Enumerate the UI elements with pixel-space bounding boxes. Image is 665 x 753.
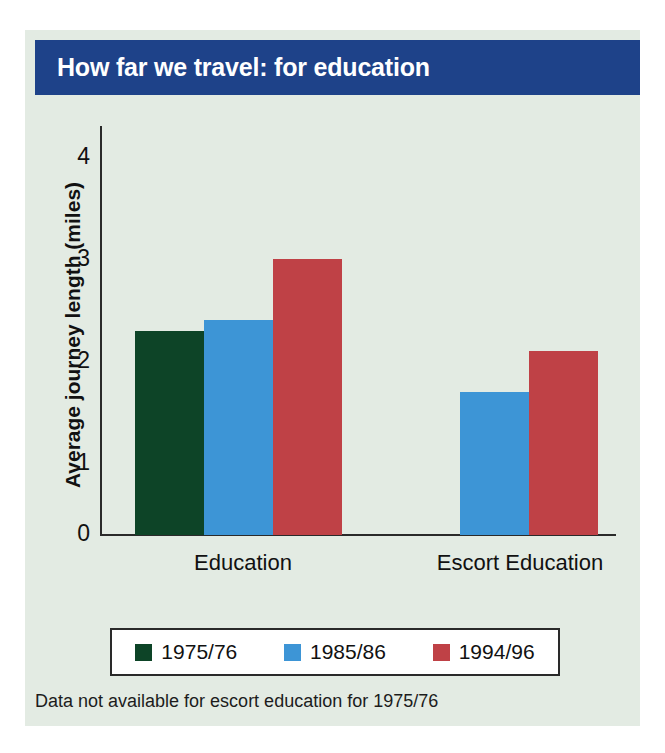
bar-education-1994-96 (273, 259, 342, 535)
legend-swatch-icon-1994-96 (433, 644, 450, 661)
legend-label-1994-96: 1994/96 (459, 640, 535, 664)
chart-figure: How far we travel: for education Average… (25, 30, 640, 726)
legend-label-1985-86: 1985/86 (310, 640, 386, 664)
bars-layer (100, 126, 616, 535)
chart-footnote: Data not available for escort education … (35, 691, 438, 712)
legend-item-1985-86: 1985/86 (284, 640, 386, 664)
bar-escort-education-1994-96 (529, 351, 598, 535)
plot-area: Average journey length (miles) 4 3 2 1 0… (25, 30, 640, 726)
x-tick-label-escort-education: Escort Education (410, 550, 630, 576)
legend-swatch-icon-1975-76 (135, 644, 152, 661)
bar-education-1975-76 (135, 331, 204, 536)
bar-education-1985-86 (204, 320, 273, 535)
bar-escort-education-1985-86 (460, 392, 529, 535)
y-tick-label-2: 2 (50, 349, 90, 372)
x-tick-label-education: Education (143, 550, 343, 576)
legend-swatch-icon-1985-86 (284, 644, 301, 661)
legend-label-1975-76: 1975/76 (161, 640, 237, 664)
y-axis-title: Average journey length (miles) (61, 135, 85, 535)
y-tick-label-1: 1 (50, 451, 90, 474)
y-tick-label-3: 3 (50, 247, 90, 270)
y-tick-label-4: 4 (50, 145, 90, 168)
chart-legend: 1975/76 1985/86 1994/96 (110, 628, 560, 676)
legend-item-1975-76: 1975/76 (135, 640, 237, 664)
y-tick-label-0: 0 (50, 522, 90, 545)
legend-item-1994-96: 1994/96 (433, 640, 535, 664)
